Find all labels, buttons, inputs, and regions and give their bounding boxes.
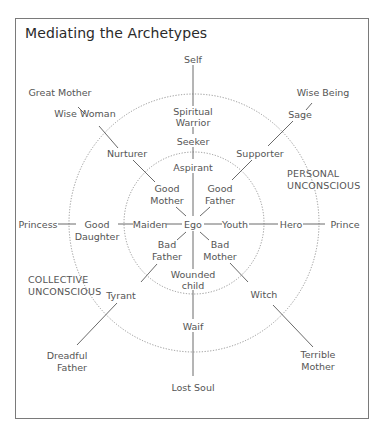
diag-line-goodfather-ego [200, 207, 210, 216]
label-dreadful-father-2: Father [57, 362, 87, 373]
label-great-mother: Great Mother [29, 87, 92, 98]
label-bad-mother-1: Bad [211, 239, 229, 250]
label-seeker: Seeker [177, 136, 210, 147]
label-wise-being: Wise Being [297, 87, 350, 98]
label-bad-father-2: Father [152, 251, 182, 262]
label-good-father-2: Father [205, 195, 235, 206]
zone-collective-2: UNCONSCIOUS [28, 286, 101, 297]
label-nurturer: Nurturer [107, 148, 147, 159]
diag-line-ego-badfather [177, 232, 186, 240]
diag-line-sage-supporter [268, 121, 293, 146]
label-aspirant: Aspirant [173, 162, 213, 173]
zone-personal-2: UNCONSCIOUS [287, 180, 360, 191]
label-good-daughter-1: Good [84, 219, 109, 230]
label-spiritual-warrior-1: Spiritual [173, 106, 212, 117]
zone-collective-1: COLLECTIVE [28, 274, 88, 285]
label-good-father-1: Good [207, 183, 232, 194]
diag-line-supporter-goodfather [232, 160, 252, 180]
label-witch: Witch [251, 289, 278, 300]
label-lost-soul: Lost Soul [171, 382, 214, 393]
diag-line-wisewoman-nurturer [99, 126, 118, 148]
label-spiritual-warrior-2: Warrior [176, 117, 211, 128]
label-youth: Youth [221, 219, 248, 230]
diag-line-badfather-tyrant [141, 264, 157, 282]
label-bad-mother-2: Mother [203, 251, 237, 262]
archetype-diagram: Self Spiritual Warrior Seeker Aspirant E… [0, 0, 388, 436]
label-tyrant: Tyrant [105, 290, 136, 301]
label-maiden: Maiden [133, 219, 168, 230]
label-ego: Ego [184, 219, 202, 230]
diag-line-nurturer-goodmother [133, 160, 155, 182]
label-dreadful-father-1: Dreadful [47, 350, 88, 361]
label-hero: Hero [280, 219, 303, 230]
label-good-mother-1: Good [154, 183, 179, 194]
zone-personal-1: PERSONAL [287, 168, 340, 179]
diag-line-badmother-witch [230, 263, 248, 282]
label-sage: Sage [288, 109, 312, 120]
label-good-daughter-2: Daughter [75, 231, 120, 242]
label-supporter: Supporter [236, 148, 283, 159]
label-bad-father-1: Bad [158, 239, 176, 250]
diag-line-witch-terrible [273, 305, 313, 347]
diag-line-ego-badmother [200, 232, 209, 240]
label-wounded-child-1: Wounded [171, 269, 216, 280]
label-self: Self [184, 54, 203, 65]
label-princess: Princess [18, 219, 57, 230]
label-wise-woman: Wise Woman [54, 108, 115, 119]
label-prince: Prince [330, 219, 359, 230]
label-terrible-mother-2: Mother [301, 361, 335, 372]
label-waif: Waif [183, 321, 204, 332]
diag-line-goodmother-ego [176, 207, 186, 216]
label-good-mother-2: Mother [150, 195, 184, 206]
diag-line-tyrant-dreadful [77, 303, 117, 345]
label-terrible-mother-1: Terrible [300, 349, 336, 360]
label-wounded-child-2: child [182, 280, 205, 291]
